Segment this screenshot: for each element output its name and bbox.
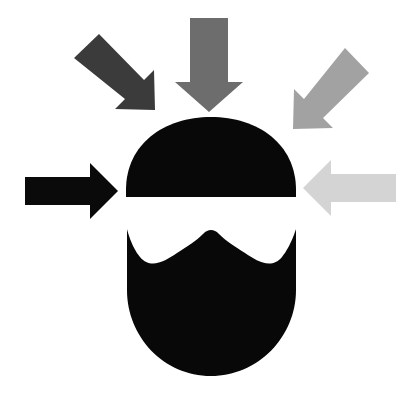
- figure-canvas: Pressure converging on a head Black silh…: [0, 0, 412, 399]
- converging-arrows-head-illustration: [0, 0, 412, 399]
